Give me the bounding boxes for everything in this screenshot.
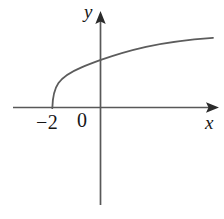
y-axis-label: y <box>84 2 92 21</box>
x-axis-label: x <box>205 113 213 132</box>
origin-label: 0 <box>77 110 87 130</box>
sqrt-curve <box>52 38 213 108</box>
coordinate-plane-svg <box>0 0 224 219</box>
graph-figure: y x 0 −2 <box>0 0 224 219</box>
x-intercept-label: −2 <box>36 112 58 132</box>
